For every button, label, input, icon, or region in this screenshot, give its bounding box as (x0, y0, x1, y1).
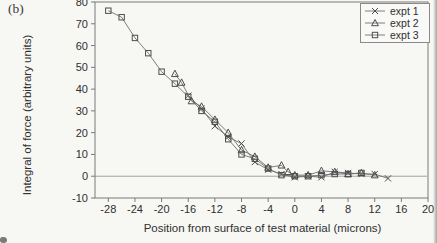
x-axis-title: Position from surface of test material (… (96, 222, 429, 234)
y-tick-label: 0 (82, 170, 88, 182)
x-tick-label: 0 (292, 203, 298, 215)
x-tick-label: 4 (318, 203, 324, 215)
x-tick-label: -8 (237, 203, 247, 215)
scan-artifact (0, 237, 7, 243)
series-expt-2-triangle-marker (172, 70, 179, 76)
x-tick-label: 12 (369, 203, 381, 215)
y-tick-label: 40 (76, 83, 88, 95)
y-tick-label: 70 (76, 18, 88, 30)
x-tick-label: 16 (395, 203, 407, 215)
legend-item-expt-3: expt 3 (364, 29, 429, 41)
x-tick-label: -20 (154, 203, 170, 215)
legend-box: expt 1 expt 2 expt 3 (360, 3, 430, 43)
legend-item-expt-1: expt 1 (364, 5, 429, 17)
legend-item-expt-2: expt 2 (364, 17, 429, 29)
series-line-expt-1 (188, 96, 388, 179)
legend-label: expt 1 (390, 6, 419, 17)
series-expt-2-triangle-marker (278, 162, 285, 168)
page-edge-shadow (433, 0, 437, 243)
y-tick-label: 50 (76, 61, 88, 73)
series-line-expt-3 (108, 11, 361, 177)
y-tick-label: -10 (72, 192, 88, 204)
y-tick-label: 80 (76, 0, 88, 8)
legend-label: expt 3 (390, 30, 419, 41)
x-tick-label: -4 (263, 203, 273, 215)
y-tick-label: 60 (76, 40, 88, 52)
x-tick-label: -16 (180, 203, 196, 215)
x-tick-label: -24 (127, 203, 143, 215)
triangle-marker-icon (364, 18, 386, 28)
x-tick-label: -28 (100, 203, 116, 215)
y-tick-label: 10 (76, 148, 88, 160)
x-marker-icon (364, 6, 386, 16)
figure-panel-b: (b) Integral of force (arbitrary units) … (0, 0, 437, 243)
y-tick-label: 30 (76, 105, 88, 117)
y-tick-label: 20 (76, 127, 88, 139)
x-tick-label: 8 (345, 203, 351, 215)
square-marker-icon (364, 30, 386, 40)
x-tick-label: -12 (207, 203, 223, 215)
legend-label: expt 2 (390, 18, 419, 29)
series-line-expt-2 (175, 74, 375, 175)
